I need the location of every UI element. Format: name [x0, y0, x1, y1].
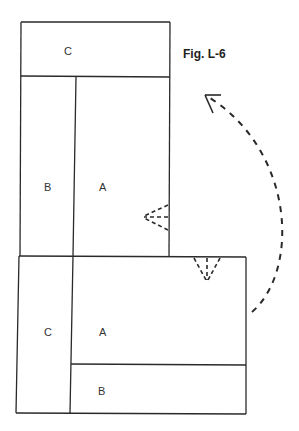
fold-marker-left-icon — [144, 205, 168, 230]
upper-right-label: A — [99, 181, 107, 193]
diagram-canvas: Fig. L-6 C B A C A B — [0, 0, 299, 431]
figure-caption: Fig. L-6 — [183, 47, 226, 61]
upper-panel — [20, 22, 170, 257]
lower-bottom-label: B — [98, 385, 105, 397]
fold-marker-down-icon — [194, 258, 220, 280]
lower-left-label: C — [44, 326, 52, 338]
rotation-arrow-icon — [205, 95, 282, 312]
upper-top-label: C — [64, 45, 72, 57]
upper-left-label: B — [44, 181, 51, 193]
lower-main-label: A — [99, 326, 107, 338]
